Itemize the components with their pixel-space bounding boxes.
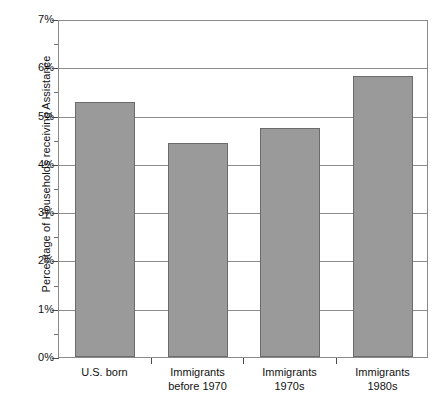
bar [260,128,320,357]
x-tick [336,358,337,364]
y-tick-label: 0% [14,352,54,363]
bar [75,102,135,357]
y-tick-label: 3% [14,207,54,218]
x-tick-label: U.S. born [58,366,151,380]
y-tick-label: 4% [14,159,54,170]
y-tick-label: 6% [14,62,54,73]
x-tick-label: Immigrants1980s [336,366,429,393]
y-tick-label: 2% [14,255,54,266]
x-tick [243,358,244,364]
bar [353,76,413,357]
y-tick-label: 5% [14,111,54,122]
x-tick-label: Immigrantsbefore 1970 [151,366,244,393]
bars-layer [59,21,427,357]
x-tick-label: Immigrants1970s [243,366,336,393]
y-tick-label: 1% [14,304,54,315]
y-tick-major [52,358,59,359]
x-tick [151,358,152,364]
y-tick-label: 7% [14,14,54,25]
bar [168,143,228,357]
plot-area [58,20,428,358]
bar-chart-figure: Percentage of Households receiving Assis… [0,0,441,416]
